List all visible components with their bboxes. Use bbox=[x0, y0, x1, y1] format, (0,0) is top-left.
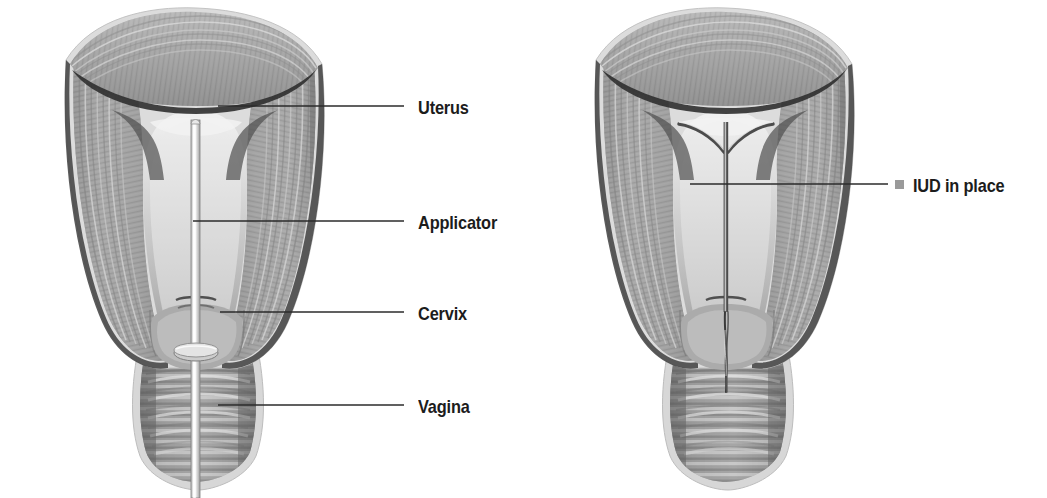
label-iud-in-place: IUD in place bbox=[913, 176, 1004, 195]
iud-stem-highlight bbox=[725, 122, 727, 312]
label-applicator: Applicator bbox=[418, 213, 497, 232]
label-cervix: Cervix bbox=[418, 304, 467, 323]
applicator-highlight bbox=[193, 120, 196, 498]
anatomy-illustration-svg bbox=[0, 0, 1047, 498]
anatomy-figure: Uterus Applicator Cervix Vagina IUD in p… bbox=[0, 0, 1047, 498]
iud-legend-swatch bbox=[895, 180, 904, 189]
label-uterus: Uterus bbox=[418, 98, 469, 117]
applicator-flange-top bbox=[174, 343, 218, 357]
label-vagina: Vagina bbox=[418, 397, 470, 416]
